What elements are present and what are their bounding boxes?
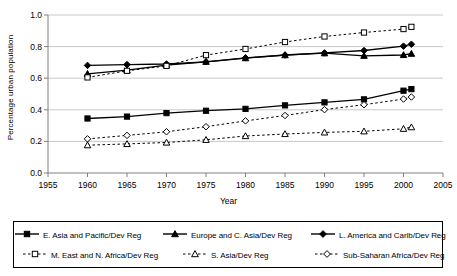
marker-open-diamond	[282, 112, 289, 119]
x-tick-label-1995: 1995	[355, 180, 374, 190]
marker-filled-square	[124, 114, 129, 119]
legend-key	[162, 228, 188, 240]
marker-open-triangle	[408, 124, 415, 130]
marker-open-square	[243, 46, 248, 51]
x-axis-title: Year	[0, 196, 457, 206]
x-tick-label-1960: 1960	[78, 180, 97, 190]
marker-filled-square	[85, 116, 90, 121]
marker-open-diamond	[242, 118, 249, 125]
y-axis-title-wrap: Percentage urban population	[2, 16, 18, 166]
legend-row-dashed: M. East and N. Africa/Dev RegS. Asia/Dev…	[14, 247, 452, 263]
x-tick-label-1990: 1990	[315, 180, 334, 190]
marker-filled-square	[322, 100, 327, 105]
legend-item-filled-square[interactable]: E. Asia and Pacific/Dev Reg	[14, 227, 162, 243]
marker-filled-square	[409, 87, 414, 92]
legend-key	[310, 228, 336, 240]
line-chart-svg: 0.00.20.40.60.81.01955196019651970197519…	[0, 0, 457, 212]
marker-open-diamond	[321, 106, 328, 113]
legend-key	[22, 248, 48, 260]
marker-filled-square	[401, 88, 406, 93]
marker-open-triangle	[192, 251, 199, 257]
marker-filled-diamond	[84, 62, 91, 69]
series-2	[84, 50, 414, 76]
legend-item-filled-triangle[interactable]: Europe and C. Asia/Dev Reg	[162, 227, 310, 243]
marker-open-triangle	[361, 128, 368, 134]
marker-open-triangle	[400, 126, 407, 132]
x-tick-label-2005: 2005	[434, 180, 453, 190]
legend-item-open-square[interactable]: M. East and N. Africa/Dev Reg	[22, 247, 182, 263]
marker-filled-triangle	[408, 50, 415, 56]
marker-filled-square	[24, 231, 29, 236]
marker-open-square	[85, 75, 90, 80]
legend-row-solid: E. Asia and Pacific/Dev RegEurope and C.…	[14, 227, 444, 243]
legend-marker-open-diamond-icon	[314, 246, 340, 264]
legend-marker-filled-square-icon	[14, 226, 40, 244]
y-tick-label-1.0: 1.0	[30, 10, 42, 20]
marker-filled-square	[164, 111, 169, 116]
chart-page: 0.00.20.40.60.81.01955196019651970197519…	[0, 0, 457, 276]
x-tick-label-1955: 1955	[39, 180, 58, 190]
y-tick-label-0.2: 0.2	[30, 136, 42, 146]
chart-legend: E. Asia and Pacific/Dev RegEurope and C.…	[13, 221, 443, 268]
marker-open-square	[32, 251, 37, 256]
x-tick-label-1980: 1980	[236, 180, 255, 190]
x-tick-label-1975: 1975	[197, 180, 216, 190]
legend-key	[14, 228, 40, 240]
y-tick-label-0.6: 0.6	[30, 73, 42, 83]
marker-open-diamond	[408, 94, 415, 101]
legend-item-label: Europe and C. Asia/Dev Reg	[191, 231, 292, 240]
marker-open-square	[409, 24, 414, 29]
legend-key	[182, 248, 208, 260]
y-tick-label-0.0: 0.0	[30, 168, 42, 178]
marker-filled-diamond	[124, 61, 131, 68]
legend-item-label: L. America and Carib/Dev Reg	[339, 231, 446, 240]
legend-item-label: Sub-Saharan Africa/Dev Reg	[343, 251, 444, 260]
legend-marker-open-square-icon	[22, 246, 48, 264]
marker-filled-diamond	[400, 43, 407, 50]
marker-open-square	[203, 53, 208, 58]
marker-filled-square	[203, 108, 208, 113]
marker-open-square	[124, 68, 129, 73]
marker-open-diamond	[163, 129, 170, 136]
y-axis-title: Percentage urban population	[6, 13, 15, 163]
marker-open-diamond	[124, 132, 131, 139]
legend-item-label: M. East and N. Africa/Dev Reg	[51, 251, 158, 260]
x-tick-label-1965: 1965	[118, 180, 137, 190]
marker-open-square	[282, 39, 287, 44]
legend-item-filled-diamond[interactable]: L. America and Carib/Dev Reg	[310, 227, 444, 243]
marker-open-square	[361, 30, 366, 35]
legend-item-open-triangle[interactable]: S. Asia/Dev Reg	[182, 247, 314, 263]
marker-open-diamond	[400, 96, 407, 103]
legend-key	[314, 248, 340, 260]
marker-filled-diamond	[320, 231, 327, 238]
marker-open-diamond	[324, 251, 331, 258]
marker-open-square	[401, 26, 406, 31]
chart-plot-area: 0.00.20.40.60.81.01955196019651970197519…	[0, 0, 457, 212]
x-tick-label-1985: 1985	[276, 180, 295, 190]
marker-open-diamond	[203, 123, 210, 129]
x-tick-label-2000: 2000	[394, 180, 413, 190]
y-tick-label-0.4: 0.4	[30, 105, 42, 115]
legend-marker-filled-triangle-icon	[162, 226, 188, 244]
legend-item-open-diamond[interactable]: Sub-Saharan Africa/Dev Reg	[314, 247, 452, 263]
marker-filled-square	[282, 103, 287, 108]
marker-open-square	[164, 63, 169, 68]
marker-filled-square	[243, 106, 248, 111]
legend-item-label: S. Asia/Dev Reg	[211, 251, 269, 260]
legend-item-label: E. Asia and Pacific/Dev Reg	[43, 231, 141, 240]
x-tick-label-1970: 1970	[157, 180, 176, 190]
series-5	[84, 124, 414, 148]
marker-filled-diamond	[361, 47, 368, 54]
y-tick-label-0.8: 0.8	[30, 42, 42, 52]
marker-open-square	[322, 34, 327, 39]
legend-marker-open-triangle-icon	[182, 246, 208, 264]
legend-marker-filled-diamond-icon	[310, 226, 336, 244]
